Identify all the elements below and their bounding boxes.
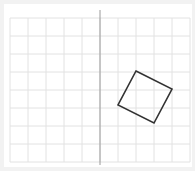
grid-diagram <box>0 0 195 171</box>
rotated-square <box>118 71 172 123</box>
